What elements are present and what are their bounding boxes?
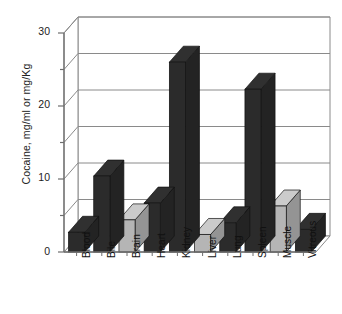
x-label-kidney: Kidney — [181, 227, 192, 258]
x-label-blood: Blood — [81, 232, 92, 258]
x-label-muscle: Muscle — [282, 226, 293, 258]
x-label-liver: Liver — [207, 236, 218, 258]
x-label-brain: Brain — [131, 234, 142, 258]
bar-chart: Cocaine, mg/ml or mg/Kg 30 20 10 0 Blood… — [0, 0, 342, 314]
chart-canvas — [0, 0, 342, 314]
x-label-bile: Bile — [106, 241, 117, 258]
x-label-spleen: Spleen — [257, 226, 268, 258]
bar-bile — [94, 160, 124, 252]
x-label-heart: Heart — [156, 233, 167, 258]
x-label-lung: Lung — [232, 235, 243, 258]
x-label-vitreous: Vitreous — [307, 221, 318, 258]
